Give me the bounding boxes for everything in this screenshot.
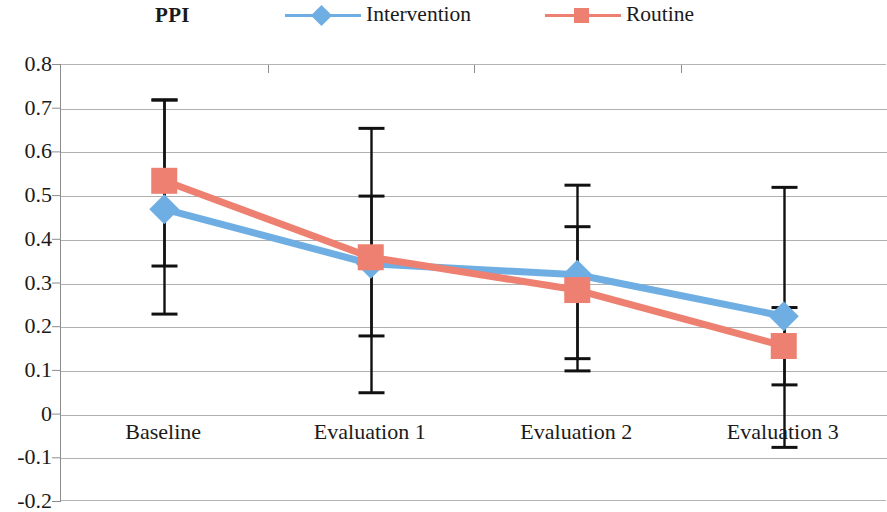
data-point-square xyxy=(151,168,177,194)
data-point-square xyxy=(358,244,384,270)
x-tick-label: Baseline xyxy=(60,421,267,443)
x-tick-label: Evaluation 1 xyxy=(267,421,474,443)
x-tick-label: Evaluation 2 xyxy=(473,421,680,443)
data-point-diamond xyxy=(769,301,799,331)
legend-item-intervention: Intervention xyxy=(285,1,471,29)
chart-title: PPI xyxy=(155,3,190,28)
legend-swatch-routine xyxy=(545,5,621,25)
x-tick-label: Evaluation 3 xyxy=(680,421,887,443)
legend-label-intervention: Intervention xyxy=(366,4,471,26)
data-point-square xyxy=(771,333,797,359)
legend-label-routine: Routine xyxy=(626,4,694,26)
square-marker-icon xyxy=(574,8,589,23)
series-line-intervention xyxy=(164,209,784,316)
data-point-square xyxy=(564,277,590,303)
chart-header: PPI Intervention Routine xyxy=(0,0,887,34)
gridlines xyxy=(61,110,887,459)
data-point-diamond xyxy=(149,194,179,224)
x-axis-ticks xyxy=(269,65,682,73)
ppi-line-chart: PPI Intervention Routine 0.80.70.60.50.4… xyxy=(0,0,887,512)
legend-item-routine: Routine xyxy=(545,1,694,29)
series-line-routine xyxy=(164,181,784,346)
diamond-marker-icon xyxy=(311,5,332,26)
legend-swatch-intervention xyxy=(285,5,361,25)
